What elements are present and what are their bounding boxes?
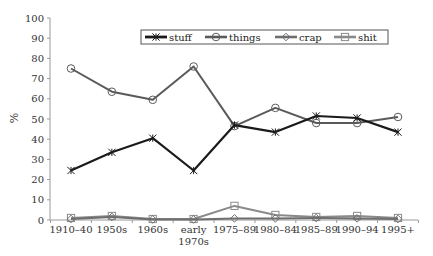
y-axis-title: %	[8, 113, 21, 123]
x-tick-label: early	[181, 224, 207, 235]
legend: stuffthingscrapshit	[141, 30, 388, 44]
x-tick-label: 1970s	[178, 236, 209, 247]
x-tick-label: 1950s	[97, 224, 128, 235]
y-tick-label: 60	[31, 93, 44, 104]
y-axis: 0102030405060708090100	[25, 13, 50, 226]
crap-line	[71, 217, 398, 219]
series-stuff	[67, 112, 401, 174]
legend-label: stuff	[169, 32, 193, 43]
y-tick-label: 90	[31, 33, 44, 44]
y-tick-label: 100	[25, 13, 44, 24]
x-tick-label: 1995+	[381, 224, 415, 235]
y-tick-label: 20	[31, 174, 44, 185]
series-layer	[67, 63, 402, 224]
x-axis: 1910–401950s1960searly1970s1975–891980–8…	[49, 220, 418, 247]
line-chart: 0102030405060708090100 1910–401950s1960s…	[0, 0, 433, 256]
x-tick-label: 1910–40	[49, 224, 92, 235]
series-things	[67, 63, 402, 130]
y-tick-label: 40	[31, 134, 44, 145]
y-tick-label: 50	[31, 114, 44, 125]
x-tick-label: 1985–89	[295, 224, 338, 235]
y-tick-label: 80	[31, 53, 44, 64]
y-tick-label: 70	[31, 73, 44, 84]
series-crap	[67, 213, 402, 223]
y-tick-label: 10	[31, 194, 44, 205]
y-tick-label: 30	[31, 154, 44, 165]
y-tick-label: 0	[38, 215, 44, 226]
legend-label: crap	[299, 32, 322, 43]
stuff-marker	[190, 167, 197, 174]
x-tick-label: 1990–94	[336, 224, 379, 235]
x-tick-label: 1960s	[137, 224, 168, 235]
legend-label: shit	[358, 32, 377, 43]
legend-label: things	[229, 32, 261, 43]
x-tick-label: 1975–89	[213, 224, 256, 235]
x-tick-label: 1980–84	[254, 224, 297, 235]
